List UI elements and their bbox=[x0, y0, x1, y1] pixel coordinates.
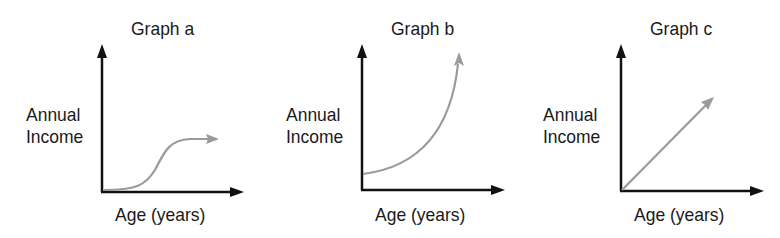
x-axis-arrow-icon bbox=[491, 185, 505, 195]
graph-b-curve bbox=[363, 64, 458, 174]
graph-a-axes bbox=[97, 44, 244, 197]
y-axis-arrow-icon bbox=[616, 44, 626, 58]
x-axis-arrow-icon bbox=[750, 186, 764, 196]
curve-arrow-icon bbox=[454, 52, 464, 66]
y-axis-arrow-icon bbox=[97, 44, 107, 58]
graph-a-plot bbox=[0, 0, 260, 238]
graph-b-panel: Graph b Annual Income Age (years) bbox=[260, 0, 520, 238]
graph-b-plot bbox=[260, 0, 520, 238]
graph-c-plot bbox=[520, 0, 780, 238]
y-axis-arrow-icon bbox=[357, 44, 367, 58]
graph-a-panel: Graph a Annual Income Age (years) bbox=[0, 0, 260, 238]
graph-a-curve bbox=[104, 139, 210, 190]
graph-c-panel: Graph c Annual Income Age (years) bbox=[520, 0, 780, 238]
graph-c-line bbox=[622, 105, 706, 190]
x-axis-arrow-icon bbox=[230, 187, 244, 197]
graph-b-axes bbox=[357, 44, 505, 195]
